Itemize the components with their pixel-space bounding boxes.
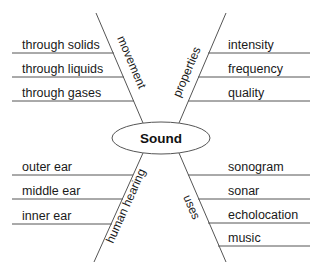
detail-label: music	[228, 231, 261, 245]
branch-uses: uses sonogram sonar echolocation music	[179, 153, 310, 262]
center-label: Sound	[140, 131, 182, 146]
detail-label: sonogram	[228, 160, 284, 174]
detail-label: through liquids	[22, 62, 103, 76]
branch-label: properties	[170, 45, 204, 100]
detail-label: middle ear	[22, 184, 80, 198]
branch-movement: movement through solids through liquids …	[12, 13, 149, 123]
detail-label: quality	[228, 86, 265, 100]
detail-label: echolocation	[228, 208, 298, 222]
detail-label: through solids	[22, 38, 100, 52]
branch-label: movement	[114, 34, 149, 92]
detail-label: frequency	[228, 62, 284, 76]
branch-label: human hearing	[103, 166, 149, 245]
detail-label: inner ear	[22, 209, 71, 223]
branch-properties: properties intensity frequency quality	[170, 13, 310, 123]
detail-label: sonar	[228, 184, 259, 198]
center-node: Sound	[112, 122, 210, 154]
branch-human-hearing: human hearing outer ear middle ear inner…	[12, 153, 149, 262]
branch-label: uses	[180, 193, 203, 222]
detail-label: outer ear	[22, 160, 72, 174]
detail-label: intensity	[228, 38, 275, 52]
detail-label: through gases	[22, 86, 101, 100]
spider-map: Sound movement through solids through li…	[0, 0, 317, 271]
